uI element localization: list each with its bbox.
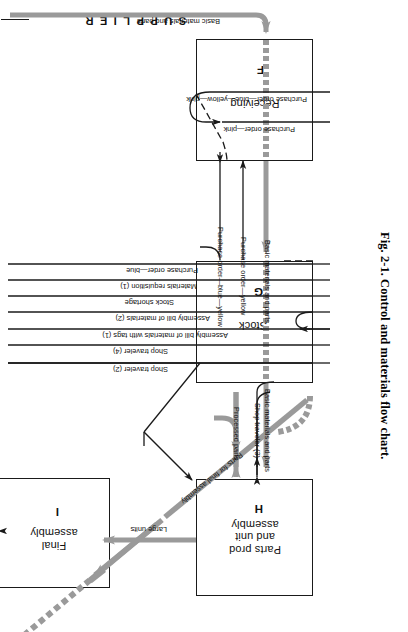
figure-caption: Fig. 2-1. Control and materials flow cha… [377, 232, 392, 459]
label-shop-traveler-4: Shop traveler (4) [113, 347, 168, 355]
label-purchase-order-blue: Purchase order—blue [126, 266, 198, 274]
label-stock-shortage: Stock shortage [125, 298, 174, 306]
label-assembly-bom-2: Assembly bill of materials (2) [116, 314, 210, 322]
label-basic-materials-top: Basic materials and parts [137, 17, 220, 25]
label-basic-materials-mid: Basic materials and parts [263, 240, 271, 323]
label-materials-requisition: Materials requisition (1) [120, 282, 197, 290]
figure-sheet: Fig. 2-1. Control and materials flow cha… [0, 0, 408, 632]
label-shop-traveler-3: Shop traveler (3) [253, 403, 261, 458]
label-purchase-order-byp: Purchase order—blue—yellow—pink [186, 95, 307, 103]
label-purchase-order-blue-yellow: Purchase order—blue—yellow [216, 227, 224, 327]
label-basic-materials-bottom: Basic materials and parts [263, 389, 271, 472]
label-assembly-bom-tags-1: Assembly bill of materials with tags (1) [102, 331, 228, 339]
label-purchase-order-pink: Purchase order—pink [224, 125, 295, 133]
flow-chart-body: SUPPLIER Receiving F Stock G Parts prod … [0, 0, 340, 632]
label-shop-traveler-2: Shop traveler (2) [113, 365, 168, 373]
label-large-units: Large units [130, 525, 167, 533]
label-purchase-order-yellow: Purchase order—yellow [239, 237, 247, 315]
